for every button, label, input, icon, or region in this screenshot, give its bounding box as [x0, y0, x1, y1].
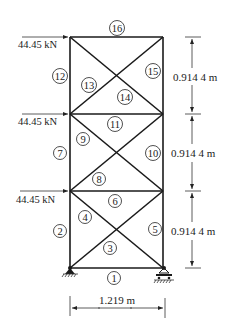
member-label-1: 1 — [108, 272, 121, 285]
member-label-5: 5 — [149, 223, 162, 236]
load-label-middle: 44.45 kN — [18, 116, 58, 127]
svg-text:11: 11 — [110, 119, 120, 130]
svg-text:16: 16 — [112, 23, 123, 34]
svg-text:9: 9 — [80, 134, 85, 145]
width-dimension: 1.219 m — [70, 294, 165, 318]
member-label-3: 3 — [104, 242, 117, 255]
truss-diagram: 1 2 3 4 5 6 7 8 9 10 11 12 13 14 15 16 4… — [0, 0, 232, 334]
load-label-bottom: 44.45 kN — [16, 194, 56, 205]
member-label-16: 16 — [110, 21, 125, 36]
member-label-8: 8 — [93, 173, 106, 186]
svg-text:4: 4 — [82, 212, 88, 223]
svg-text:13: 13 — [84, 80, 95, 91]
svg-text:6: 6 — [112, 196, 117, 207]
member-labels: 1 2 3 4 5 6 7 8 9 10 11 12 13 14 15 16 — [53, 21, 162, 285]
svg-text:7: 7 — [57, 148, 62, 159]
svg-text:3: 3 — [107, 243, 112, 254]
member-label-10: 10 — [146, 146, 161, 161]
member-label-11: 11 — [108, 117, 123, 132]
height-dimensions: 0.914 4 m 0.914 4 m 0.914 4 m — [171, 37, 218, 268]
svg-text:10: 10 — [148, 148, 159, 159]
member-label-12: 12 — [53, 69, 68, 84]
member-label-7: 7 — [54, 147, 67, 160]
applied-loads: 44.45 kN 44.45 kN 44.45 kN — [16, 37, 68, 205]
load-label-top: 44.45 kN — [18, 39, 58, 50]
svg-text:5: 5 — [152, 224, 157, 235]
height-label-bottom: 0.914 4 m — [171, 225, 216, 237]
svg-text:15: 15 — [148, 66, 159, 77]
member-label-13: 13 — [82, 78, 97, 93]
width-label: 1.219 m — [99, 294, 136, 306]
load-top: 44.45 kN — [18, 37, 68, 50]
height-label-top: 0.914 4 m — [173, 71, 218, 83]
svg-text:14: 14 — [120, 92, 131, 103]
member-label-6: 6 — [109, 195, 122, 208]
member-label-2: 2 — [54, 225, 67, 238]
load-middle: 44.45 kN — [18, 114, 68, 127]
svg-text:8: 8 — [96, 174, 101, 185]
svg-text:2: 2 — [57, 226, 62, 237]
member-label-9: 9 — [77, 133, 90, 146]
height-label-middle: 0.914 4 m — [171, 147, 216, 159]
member-label-14: 14 — [118, 90, 133, 105]
member-label-4: 4 — [79, 211, 92, 224]
svg-text:12: 12 — [55, 71, 66, 82]
member-label-15: 15 — [146, 64, 161, 79]
svg-text:1: 1 — [111, 273, 116, 284]
load-bottom: 44.45 kN — [16, 191, 68, 205]
